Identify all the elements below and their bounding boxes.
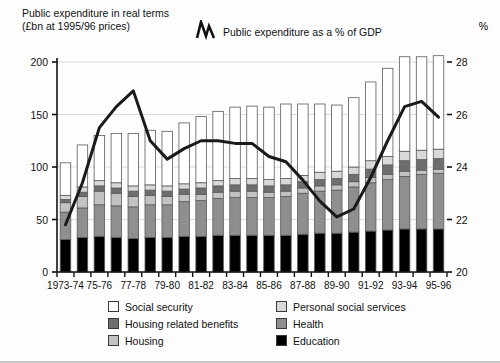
bar-segment-education xyxy=(315,233,326,272)
x-axis-tick-label: 81-82 xyxy=(188,280,214,291)
legend-item-housing-related-benefits[interactable]: Housing related benefits xyxy=(108,318,276,330)
x-axis-tick-label: 89-90 xyxy=(324,280,350,291)
bar-stack xyxy=(433,56,444,272)
bar-stack xyxy=(213,111,224,272)
bar-segment-housing-related-benefits xyxy=(230,185,241,191)
bar-segment-education xyxy=(416,229,427,272)
y2-axis-tick-label: 24 xyxy=(456,161,486,173)
x-axis-tick-label: 95-96 xyxy=(426,280,452,291)
bar-segment-personal-social-services xyxy=(196,183,207,188)
bar-segment-personal-social-services xyxy=(382,157,393,165)
bar-segment-housing-related-benefits xyxy=(162,191,173,196)
bar-segment-social-security xyxy=(111,133,122,182)
x-axis-tick-label: 1973-74 xyxy=(47,280,84,291)
bar-segment-health xyxy=(111,206,122,238)
x-axis-tick-label: 87-88 xyxy=(290,280,316,291)
legend-label: Housing xyxy=(125,335,164,347)
bar-segment-housing xyxy=(433,169,444,173)
bar-segment-education xyxy=(298,234,309,272)
bar-segment-education xyxy=(382,230,393,272)
bar-segment-health xyxy=(94,205,105,237)
bar-segment-education xyxy=(179,236,190,272)
bar-segment-housing-related-benefits xyxy=(264,186,275,192)
legend-label: Education xyxy=(293,335,340,347)
bar-segment-education xyxy=(365,231,376,272)
bar-segment-education xyxy=(332,233,343,272)
bar-segment-housing-related-benefits xyxy=(111,188,122,193)
bar-stack xyxy=(298,104,309,272)
bar-segment-housing-related-benefits xyxy=(315,180,326,186)
legend-swatch-education xyxy=(276,335,287,346)
bar-segment-personal-social-services xyxy=(111,183,122,188)
bar-segment-health xyxy=(196,201,207,237)
bar-segment-social-security xyxy=(196,117,207,183)
legend-label: Health xyxy=(293,318,323,330)
bar-segment-social-security xyxy=(365,82,376,161)
bar-stack xyxy=(264,107,275,272)
bar-segment-housing xyxy=(179,194,190,201)
y-axis-tick-label: 0 xyxy=(18,266,48,278)
y-axis-tick-label: 100 xyxy=(18,161,48,173)
legend-item-education[interactable]: Education xyxy=(276,335,478,347)
bar-segment-health xyxy=(298,193,309,234)
bar-segment-health xyxy=(433,173,444,229)
bar-stack xyxy=(77,145,88,272)
bar-segment-personal-social-services xyxy=(230,179,241,185)
bar-segment-housing xyxy=(60,203,71,212)
legend-swatch-social-security xyxy=(108,301,119,312)
bar-segment-housing xyxy=(247,191,258,197)
bar-segment-housing xyxy=(382,174,393,179)
bar-segment-housing-related-benefits xyxy=(145,190,156,195)
bar-segment-health xyxy=(128,207,139,239)
legend-swatch-housing xyxy=(108,335,119,346)
bar-segment-personal-social-services xyxy=(247,179,258,185)
bar-segment-education xyxy=(162,237,173,272)
bar-segment-housing-related-benefits xyxy=(94,186,105,191)
bar-segment-education xyxy=(128,238,139,272)
bar-segment-personal-social-services xyxy=(399,151,410,160)
bar-segment-housing xyxy=(128,196,139,207)
bar-segment-housing xyxy=(77,196,88,208)
bar-segment-education xyxy=(111,237,122,272)
bar-segment-health xyxy=(145,205,156,238)
legend-item-health[interactable]: Health xyxy=(276,318,478,330)
legend-item-housing[interactable]: Housing xyxy=(108,335,276,347)
bar-segment-social-security xyxy=(60,163,71,196)
bar-stack xyxy=(128,133,139,272)
bar-segment-health xyxy=(162,205,173,238)
bar-segment-housing xyxy=(196,194,207,200)
legend-item-social-security[interactable]: Social security xyxy=(108,301,276,313)
bar-segment-health xyxy=(416,174,427,229)
bar-segment-housing-related-benefits xyxy=(213,186,224,192)
bar-segment-personal-social-services xyxy=(179,184,190,189)
bar-segment-education xyxy=(213,235,224,272)
legend-item-personal-social-services[interactable]: Personal social services xyxy=(276,301,478,313)
x-axis-tick-label: 75-76 xyxy=(87,280,113,291)
x-axis-tick-label: 85-86 xyxy=(256,280,282,291)
bar-segment-housing xyxy=(94,191,105,205)
bar-segment-housing-related-benefits xyxy=(60,200,71,203)
bar-segment-education xyxy=(281,235,292,272)
bar-segment-personal-social-services xyxy=(213,181,224,186)
bar-segment-health xyxy=(213,199,224,236)
legend-label: Personal social services xyxy=(293,301,406,313)
bar-stack xyxy=(145,130,156,272)
bar-segment-personal-social-services xyxy=(281,179,292,185)
bar-stack xyxy=(162,131,173,272)
bar-segment-education xyxy=(247,235,258,272)
bar-stack xyxy=(230,107,241,272)
bar-segment-housing-related-benefits xyxy=(196,188,207,194)
bar-segment-social-security xyxy=(264,107,275,179)
bar-segment-education xyxy=(230,235,241,272)
bar-segment-personal-social-services xyxy=(94,181,105,186)
bar-segment-education xyxy=(399,229,410,272)
bar-segment-housing xyxy=(416,170,427,174)
bar-segment-housing xyxy=(348,182,359,187)
bar-segment-housing-related-benefits xyxy=(332,179,343,185)
legend-label: Housing related benefits xyxy=(125,318,238,330)
bar-stack xyxy=(332,105,343,272)
bar-segment-health xyxy=(281,196,292,235)
bar-segment-social-security xyxy=(179,123,190,184)
y2-axis-tick-label: 26 xyxy=(456,109,486,121)
bar-segment-personal-social-services xyxy=(433,149,444,158)
